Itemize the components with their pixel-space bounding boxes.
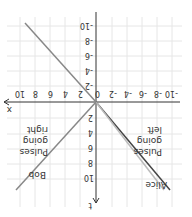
bob-label: Bob xyxy=(28,170,46,180)
svg-text:-10: -10 xyxy=(165,89,178,98)
svg-text:-8: -8 xyxy=(154,89,162,98)
svg-text:10: 10 xyxy=(15,89,25,98)
svg-text:-6: -6 xyxy=(139,89,147,98)
svg-text:-2: -2 xyxy=(109,89,117,98)
svg-text:0: 0 xyxy=(95,89,100,98)
svg-text:-2: -2 xyxy=(85,81,93,90)
svg-text:8: 8 xyxy=(88,158,93,167)
svg-text:4: 4 xyxy=(63,89,68,98)
svg-text:-10: -10 xyxy=(80,21,93,30)
svg-text:10: 10 xyxy=(84,173,94,182)
svg-text:-4: -4 xyxy=(124,89,132,98)
svg-text:2: 2 xyxy=(88,113,93,122)
svg-text:left: left xyxy=(147,125,162,135)
svg-text:going: going xyxy=(137,136,162,146)
x-tick-labels: -10 -8 -6 -4 -2 0 2 4 6 8 10 xyxy=(15,89,178,98)
svg-text:going: going xyxy=(23,136,48,146)
x-axis-label: x xyxy=(6,105,12,115)
alice-label: Alice xyxy=(145,180,167,190)
svg-text:-6: -6 xyxy=(85,51,93,60)
svg-text:2: 2 xyxy=(78,89,83,98)
pulse-left-line xyxy=(96,102,164,190)
svg-text:-4: -4 xyxy=(85,66,93,75)
diagram-canvas: x t -10 -8 -6 -4 -2 0 2 4 6 8 10 -10 -8 … xyxy=(0,0,192,217)
svg-text:-8: -8 xyxy=(85,36,93,45)
spacetime-diagram: x t -10 -8 -6 -4 -2 0 2 4 6 8 10 -10 -8 … xyxy=(0,0,192,217)
pulses-right-label: Pulses going right xyxy=(19,125,48,157)
svg-text:6: 6 xyxy=(88,143,93,152)
svg-text:Pulses: Pulses xyxy=(133,147,162,157)
svg-text:Pulses: Pulses xyxy=(19,147,48,157)
svg-text:6: 6 xyxy=(48,89,53,98)
t-axis-label: t xyxy=(88,201,92,211)
pulses-left-label: Pulses going left xyxy=(133,125,162,157)
svg-text:4: 4 xyxy=(88,128,93,137)
svg-text:8: 8 xyxy=(33,89,38,98)
svg-text:right: right xyxy=(26,125,48,135)
